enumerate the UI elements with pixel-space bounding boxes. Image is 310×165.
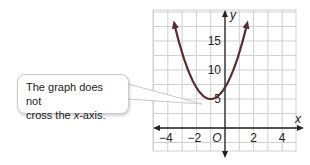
svg-text:15: 15 <box>208 34 222 48</box>
svg-text:O: O <box>212 131 221 145</box>
svg-text:−2: −2 <box>188 131 202 145</box>
callout-line-2: cross the x-axis. <box>26 108 120 122</box>
svg-text:x: x <box>294 112 302 126</box>
svg-text:10: 10 <box>208 63 222 77</box>
svg-text:4: 4 <box>279 131 286 145</box>
svg-text:−4: −4 <box>159 131 173 145</box>
svg-text:y: y <box>229 8 237 22</box>
callout-line-1: The graph does not <box>26 80 120 108</box>
callout-box: The graph does not cross the x-axis. <box>17 74 129 114</box>
svg-text:2: 2 <box>250 131 257 145</box>
